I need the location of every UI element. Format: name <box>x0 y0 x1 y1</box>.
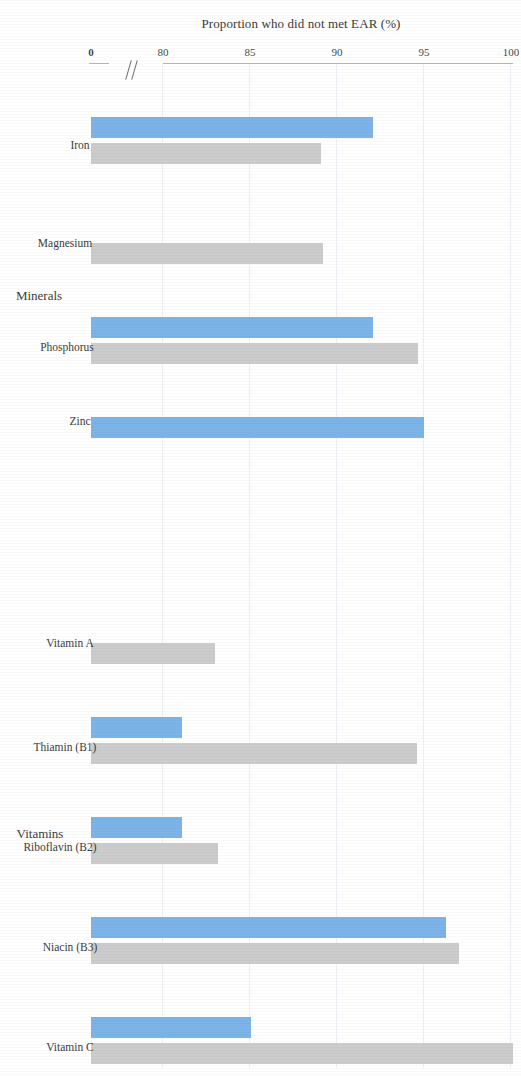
tick-label-100: 100 <box>494 46 521 58</box>
bar-phosphorus-gray <box>91 343 418 364</box>
group-label-minerals: Minerals <box>3 288 75 304</box>
value-axis-title: Proportion who did not met EAR (%) <box>121 16 481 32</box>
bar-phosphorus-blue <box>91 317 373 338</box>
bar-thiamin-b1-blue <box>91 717 182 738</box>
category-label-magnesium: Magnesium <box>15 237 115 250</box>
bar-riboflavin-b2-blue <box>91 817 182 838</box>
category-label-vitamin-c: Vitamin C <box>25 1041 115 1054</box>
category-label-zinc: Zinc <box>45 415 115 428</box>
bar-niacin-b3-blue <box>91 917 446 938</box>
tick-label-80: 80 <box>146 46 180 58</box>
category-label-iron: Iron <box>45 139 115 152</box>
group-label-vitamins: Vitamins <box>5 826 75 842</box>
tick-label-0: 0 <box>74 46 108 58</box>
category-label-phosphorus: Phosphorus <box>19 341 115 354</box>
tick-label-90: 90 <box>320 46 354 58</box>
bar-thiamin-b1-gray <box>91 743 417 764</box>
category-label-thiamin-b1: Thiamin (B1) <box>15 741 115 754</box>
bar-niacin-b3-gray <box>91 943 459 964</box>
gridline-100 <box>510 64 511 1068</box>
bar-zinc-blue <box>91 417 424 438</box>
bar-iron-gray <box>91 143 321 164</box>
plot-area: 100 95 90 85 80 0 Proportion who did not… <box>0 0 521 1076</box>
bar-vitamin-c-blue <box>91 1017 251 1038</box>
value-axis-line <box>163 63 513 64</box>
tick-label-85: 85 <box>233 46 267 58</box>
value-axis-zero-stub <box>89 63 109 64</box>
category-label-niacin-b3: Niacin (B3) <box>25 941 115 954</box>
category-label-riboflavin-b2: Riboflavin (B2) <box>5 841 115 854</box>
category-label-vitamin-a: Vitamin A <box>25 637 115 650</box>
axis-break-icon <box>121 58 139 80</box>
tick-label-95: 95 <box>407 46 441 58</box>
bar-vitamin-c-gray <box>91 1043 513 1064</box>
chart-canvas: 100 95 90 85 80 0 Proportion who did not… <box>0 0 521 1076</box>
bar-iron-blue <box>91 117 373 138</box>
bar-magnesium-gray <box>91 243 323 264</box>
